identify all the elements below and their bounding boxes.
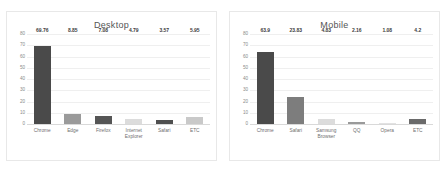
bar-slot: 4.2	[403, 34, 434, 124]
x-axis-label: Internet Explorer	[119, 126, 150, 140]
bar-value-label: 2.16	[342, 28, 373, 35]
y-tick-label: 10	[20, 110, 25, 115]
x-axis-label: QQ	[342, 126, 373, 134]
bar-value-label: 3.57	[149, 28, 180, 35]
bar-series: 63.923.834.832.161.084.2	[250, 34, 433, 124]
y-axis: 80706050403020100	[11, 34, 25, 124]
y-tick-label: 60	[243, 54, 248, 59]
y-tick-label: 0	[22, 122, 25, 127]
y-tick-label: 0	[245, 122, 248, 127]
bar-slot: 3.57	[149, 34, 180, 124]
x-axis-label: Safari	[281, 126, 312, 134]
bar-value-label: 63.9	[250, 28, 281, 35]
bar-slot: 2.16	[342, 34, 373, 124]
bar-value-label: 5.95	[180, 28, 211, 35]
y-tick-label: 50	[20, 65, 25, 70]
y-tick-label: 30	[20, 88, 25, 93]
bar[interactable]: 1.08	[379, 123, 396, 124]
x-axis-label: ETC	[180, 126, 211, 134]
y-tick-label: 80	[20, 32, 25, 37]
chart-panels: Desktop8070605040302010069.768.857.084.7…	[0, 0, 446, 175]
bar-value-label: 23.83	[281, 28, 312, 35]
bar-series: 69.768.857.084.793.575.95	[27, 34, 210, 124]
y-tick-label: 10	[243, 110, 248, 115]
x-axis-labels: ChromeEdgeFirefoxInternet ExplorerSafari…	[27, 126, 210, 152]
bar-value-label: 69.76	[27, 28, 58, 35]
axis-baseline	[250, 124, 433, 125]
y-tick-label: 40	[243, 77, 248, 82]
bar-slot: 4.79	[119, 34, 150, 124]
bar-value-label: 1.08	[372, 28, 403, 35]
y-tick-label: 80	[243, 32, 248, 37]
y-tick-label: 70	[243, 43, 248, 48]
x-axis-label: Chrome	[27, 126, 58, 134]
x-axis-label: Firefox	[88, 126, 119, 134]
bar-slot: 23.83	[281, 34, 312, 124]
y-tick-label: 60	[20, 54, 25, 59]
bar-value-label: 4.2	[403, 28, 434, 35]
y-tick-label: 20	[20, 99, 25, 104]
bar[interactable]: 2.16	[348, 122, 365, 124]
bar-slot: 4.83	[311, 34, 342, 124]
y-tick-label: 70	[20, 43, 25, 48]
bar-value-label: 4.79	[119, 28, 150, 35]
plot-area: 8070605040302010063.923.834.832.161.084.…	[230, 34, 439, 160]
y-tick-label: 50	[243, 65, 248, 70]
bar[interactable]: 5.95	[186, 117, 203, 124]
y-tick-label: 40	[20, 77, 25, 82]
plot-area: 8070605040302010069.768.857.084.793.575.…	[7, 34, 216, 160]
bar[interactable]: 4.83	[318, 119, 335, 124]
chart-panel-desktop: Desktop8070605040302010069.768.857.084.7…	[6, 11, 217, 161]
x-axis-label: ETC	[403, 126, 434, 134]
bar-slot: 1.08	[372, 34, 403, 124]
bar[interactable]: 7.08	[95, 116, 112, 124]
y-tick-label: 20	[243, 99, 248, 104]
x-axis-label: Opera	[372, 126, 403, 134]
y-tick-label: 30	[243, 88, 248, 93]
x-axis-label: Safari	[149, 126, 180, 134]
chart-panel-mobile: Mobile8070605040302010063.923.834.832.16…	[229, 11, 440, 161]
bar[interactable]: 63.9	[257, 52, 274, 124]
bar-slot: 7.08	[88, 34, 119, 124]
bar[interactable]: 23.83	[287, 97, 304, 124]
x-axis-labels: ChromeSafariSamsung BrowserQQOperaETC	[250, 126, 433, 152]
bar[interactable]: 8.85	[64, 114, 81, 124]
bar[interactable]: 69.76	[34, 46, 51, 124]
bar[interactable]: 4.79	[125, 119, 142, 124]
y-axis: 80706050403020100	[234, 34, 248, 124]
bar-slot: 5.95	[180, 34, 211, 124]
bar-slot: 69.76	[27, 34, 58, 124]
bar-slot: 8.85	[58, 34, 89, 124]
bar[interactable]: 4.2	[409, 119, 426, 124]
bar-slot: 63.9	[250, 34, 281, 124]
axis-baseline	[27, 124, 210, 125]
bar-value-label: 7.08	[88, 28, 119, 35]
bar[interactable]: 3.57	[156, 120, 173, 124]
chart-page: Desktop8070605040302010069.768.857.084.7…	[0, 0, 446, 175]
x-axis-label: Chrome	[250, 126, 281, 134]
bar-value-label: 4.83	[311, 28, 342, 35]
x-axis-label: Edge	[58, 126, 89, 134]
x-axis-label: Samsung Browser	[311, 126, 342, 140]
bar-value-label: 8.85	[58, 28, 89, 35]
